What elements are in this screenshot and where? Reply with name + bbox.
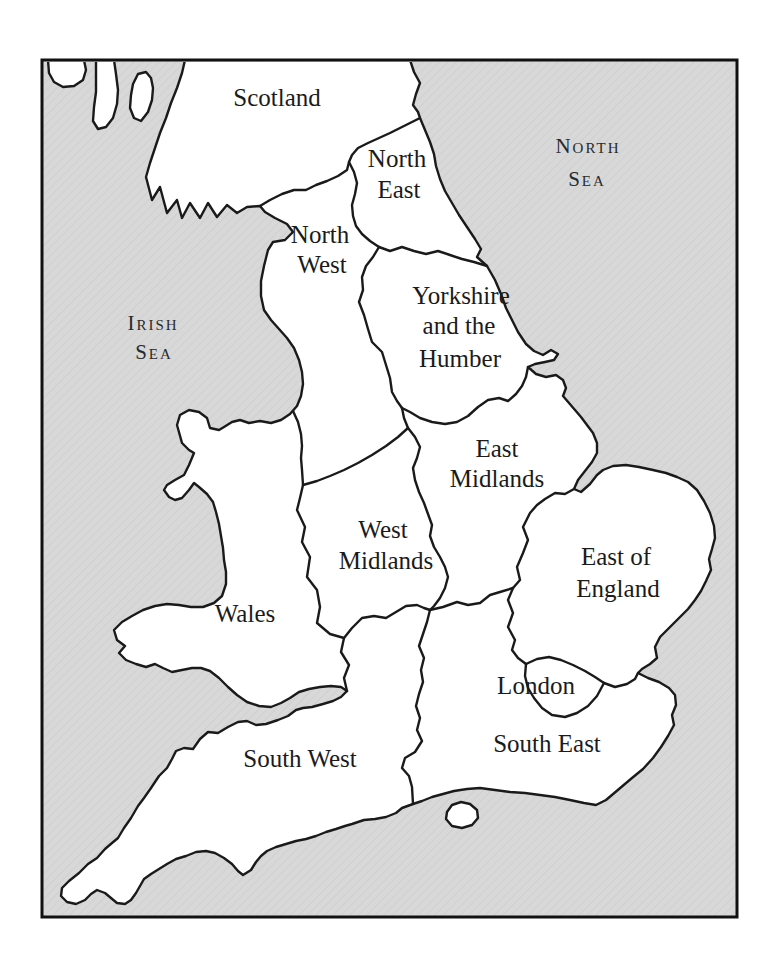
label-north-west-line1: North bbox=[291, 221, 350, 248]
label-north-sea-line1: North bbox=[555, 134, 620, 158]
island-hebrides-west bbox=[48, 60, 86, 87]
label-north-west-line2: West bbox=[297, 251, 346, 278]
label-irish-sea-line2: Sea bbox=[135, 340, 173, 364]
label-yorkshire-line2: and the bbox=[423, 312, 496, 339]
label-east-of-england-line1: East of bbox=[581, 543, 652, 570]
label-north-east-line1: North bbox=[368, 145, 427, 172]
label-east-of-england-line2: England bbox=[576, 575, 660, 602]
label-london: London bbox=[497, 672, 575, 699]
label-irish-sea-line1: Irish bbox=[127, 311, 178, 335]
label-west-midlands-line1: West bbox=[358, 516, 407, 543]
label-scotland: Scotland bbox=[233, 84, 321, 111]
label-east-midlands-line1: East bbox=[475, 435, 518, 462]
uk-regions-map: North Sea Irish Sea Scotland North East … bbox=[0, 0, 773, 980]
label-wales: Wales bbox=[215, 600, 275, 627]
island-isle-of-wight bbox=[446, 802, 478, 828]
label-east-midlands-line2: Midlands bbox=[450, 465, 544, 492]
label-north-east-line2: East bbox=[377, 176, 420, 203]
map-page: North Sea Irish Sea Scotland North East … bbox=[0, 0, 773, 980]
label-south-west: South West bbox=[243, 745, 357, 772]
label-yorkshire-line1: Yorkshire bbox=[412, 282, 509, 309]
label-north-sea-line2: Sea bbox=[568, 167, 606, 191]
label-south-east: South East bbox=[493, 730, 601, 757]
label-yorkshire-line3: Humber bbox=[419, 345, 502, 372]
label-west-midlands-line2: Midlands bbox=[339, 547, 433, 574]
